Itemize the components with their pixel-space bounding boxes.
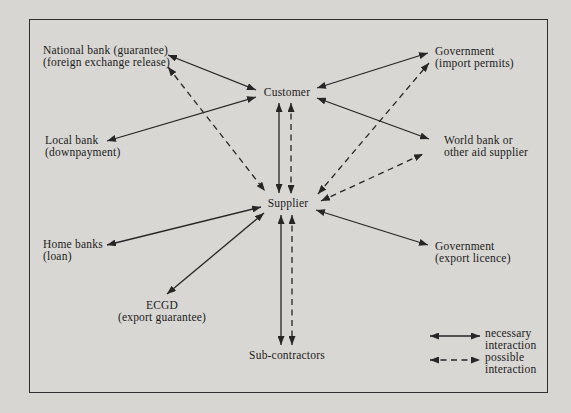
edge-customer-government-import-necessary xyxy=(317,53,428,88)
edge-customer-world-bank-necessary xyxy=(317,98,429,139)
node-government-export-line1: Government xyxy=(435,240,511,252)
legend-possible-label: possible interaction xyxy=(485,351,536,375)
legend-necessary-line2: interaction xyxy=(485,339,536,351)
node-world-bank: World bank or other aid supplier xyxy=(444,134,528,158)
node-customer-label: Customer xyxy=(264,86,310,98)
figure-canvas: National bank (guarantee) (foreign excha… xyxy=(0,0,571,413)
node-supplier: Supplier xyxy=(268,197,309,209)
node-local-bank-line2: (downpayment) xyxy=(45,146,120,158)
edge-supplier-ecgd-necessary xyxy=(167,213,264,294)
node-government-export: Government (export licence) xyxy=(435,240,511,264)
node-government-export-line2: (export licence) xyxy=(435,252,511,264)
node-local-bank: Local bank (downpayment) xyxy=(45,134,120,158)
node-government-import-line2: (import permits) xyxy=(435,57,514,69)
node-supplier-label: Supplier xyxy=(268,197,309,209)
edge-supplier-world-bank-possible xyxy=(321,154,423,201)
node-government-import-line1: Government xyxy=(435,45,514,57)
legend-possible-line1: possible xyxy=(485,351,536,363)
node-home-banks-line2: (loan) xyxy=(43,250,103,262)
node-ecgd-line1: ECGD xyxy=(118,299,206,311)
node-national-bank: National bank (guarantee) (foreign excha… xyxy=(43,44,170,68)
node-ecgd: ECGD (export guarantee) xyxy=(118,299,206,323)
legend-possible-line2: interaction xyxy=(485,363,536,375)
node-home-banks: Home banks (loan) xyxy=(43,238,103,262)
node-national-bank-line2: (foreign exchange release) xyxy=(43,56,170,68)
node-government-import: Government (import permits) xyxy=(435,45,514,69)
node-sub-contractors-label: Sub-contractors xyxy=(249,349,325,361)
edge-supplier-government-export-necessary xyxy=(316,210,428,245)
edge-supplier-home-banks-necessary xyxy=(107,207,261,245)
legend-necessary-line1: necessary xyxy=(485,327,536,339)
node-customer: Customer xyxy=(264,86,310,98)
node-sub-contractors: Sub-contractors xyxy=(249,349,325,361)
edge-national-bank-supplier-possible xyxy=(168,67,265,191)
node-ecgd-line2: (export guarantee) xyxy=(118,311,206,323)
node-world-bank-line1: World bank or xyxy=(444,134,528,146)
node-home-banks-line1: Home banks xyxy=(43,238,103,250)
node-local-bank-line1: Local bank xyxy=(45,134,120,146)
edge-local-bank-customer-necessary xyxy=(107,97,256,141)
node-national-bank-line1: National bank (guarantee) xyxy=(43,44,170,56)
legend-necessary-label: necessary interaction xyxy=(485,327,536,351)
node-world-bank-line2: other aid supplier xyxy=(444,146,528,158)
